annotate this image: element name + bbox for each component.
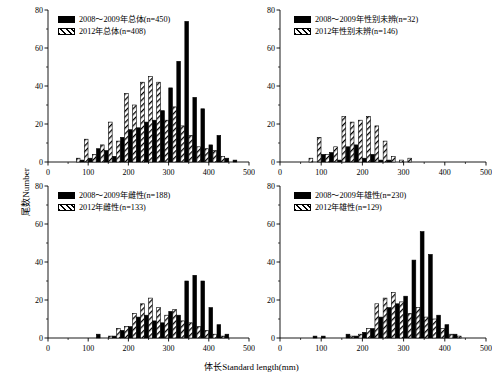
legend-panel-total: 2008～2009年总体(n=450) 2012年总体(n=408) <box>58 14 170 38</box>
svg-text:100: 100 <box>315 168 327 177</box>
legend-entry: 2008～2009年性别未辨(n=32) <box>294 14 418 25</box>
svg-text:0: 0 <box>46 344 50 353</box>
legend-swatch-solid-icon <box>58 192 75 199</box>
legend-swatch-hatched-icon <box>58 28 75 35</box>
svg-text:400: 400 <box>439 168 451 177</box>
svg-text:80: 80 <box>35 182 43 191</box>
legend-entry: 2012年雌性(n=133) <box>58 202 170 213</box>
svg-text:400: 400 <box>203 344 215 353</box>
panel-total: 0204060800100200300400500 2008～2009年总体(n… <box>20 6 255 184</box>
legend-panel-female: 2008～2009年雌性(n=188) 2012年雌性(n=133) <box>58 190 170 214</box>
legend-label: 2008～2009年雄性(n=230) <box>315 190 406 201</box>
svg-text:200: 200 <box>122 344 134 353</box>
legend-swatch-solid-icon <box>294 192 311 199</box>
legend-label: 2012年总体(n=408) <box>79 26 146 37</box>
svg-text:300: 300 <box>398 168 410 177</box>
legend-label: 2008～2009年雌性(n=188) <box>79 190 170 201</box>
svg-text:0: 0 <box>46 168 50 177</box>
svg-text:100: 100 <box>315 344 327 353</box>
legend-entry: 2008～2009年雄性(n=230) <box>294 190 406 201</box>
svg-text:40: 40 <box>35 258 43 267</box>
svg-text:100: 100 <box>82 168 94 177</box>
legend-swatch-solid-icon <box>294 16 311 23</box>
legend-entry: 2008～2009年总体(n=450) <box>58 14 170 25</box>
legend-swatch-hatched-icon <box>294 28 311 35</box>
svg-text:300: 300 <box>398 344 410 353</box>
legend-label: 2012年雄性(n=129) <box>315 202 382 213</box>
svg-text:80: 80 <box>267 182 275 191</box>
legend-label: 2008～2009年总体(n=450) <box>79 14 170 25</box>
svg-text:400: 400 <box>203 168 215 177</box>
svg-text:0: 0 <box>39 334 43 343</box>
svg-text:0: 0 <box>271 158 275 167</box>
svg-text:80: 80 <box>267 6 275 15</box>
panel-male: 0204060800100200300400500 2008～2009年雄性(n… <box>252 182 492 360</box>
svg-text:300: 300 <box>163 344 175 353</box>
svg-text:100: 100 <box>82 344 94 353</box>
legend-label: 2008～2009年性别未辨(n=32) <box>315 14 418 25</box>
x-axis-label: 体长Standard length(mm) <box>0 360 503 373</box>
svg-text:200: 200 <box>356 168 368 177</box>
legend-swatch-solid-icon <box>58 16 75 23</box>
svg-text:60: 60 <box>267 220 275 229</box>
svg-text:60: 60 <box>35 220 43 229</box>
legend-entry: 2012年雄性(n=129) <box>294 202 406 213</box>
svg-text:40: 40 <box>267 82 275 91</box>
legend-swatch-hatched-icon <box>294 204 311 211</box>
legend-entry: 2012年性别未辨(n=146) <box>294 26 418 37</box>
panel-female: 0204060800100200300400500 2008～2009年雌性(n… <box>20 182 255 360</box>
legend-panel-male: 2008～2009年雄性(n=230) 2012年雄性(n=129) <box>294 190 406 214</box>
svg-text:0: 0 <box>278 344 282 353</box>
svg-text:40: 40 <box>35 82 43 91</box>
svg-text:0: 0 <box>39 158 43 167</box>
svg-text:20: 20 <box>267 120 275 129</box>
svg-text:400: 400 <box>439 344 451 353</box>
svg-text:0: 0 <box>271 334 275 343</box>
svg-text:40: 40 <box>267 258 275 267</box>
legend-swatch-hatched-icon <box>58 204 75 211</box>
svg-text:60: 60 <box>35 44 43 53</box>
svg-text:0: 0 <box>278 168 282 177</box>
svg-text:20: 20 <box>35 120 43 129</box>
legend-label: 2012年性别未辨(n=146) <box>315 26 398 37</box>
svg-text:500: 500 <box>480 168 492 177</box>
svg-text:20: 20 <box>267 296 275 305</box>
svg-text:60: 60 <box>267 44 275 53</box>
legend-label: 2012年雌性(n=133) <box>79 202 146 213</box>
svg-text:300: 300 <box>163 168 175 177</box>
legend-entry: 2008～2009年雌性(n=188) <box>58 190 170 201</box>
figure-histogram-panels: 尾数Number 体长Standard length(mm) 020406080… <box>0 0 503 384</box>
panel-unsexed: 0204060800100200300400500 2008～2009年性别未辨… <box>252 6 492 184</box>
svg-text:20: 20 <box>35 296 43 305</box>
legend-panel-unsexed: 2008～2009年性别未辨(n=32) 2012年性别未辨(n=146) <box>294 14 418 38</box>
legend-entry: 2012年总体(n=408) <box>58 26 170 37</box>
svg-text:500: 500 <box>480 344 492 353</box>
svg-text:80: 80 <box>35 6 43 15</box>
svg-text:200: 200 <box>122 168 134 177</box>
svg-text:200: 200 <box>356 344 368 353</box>
